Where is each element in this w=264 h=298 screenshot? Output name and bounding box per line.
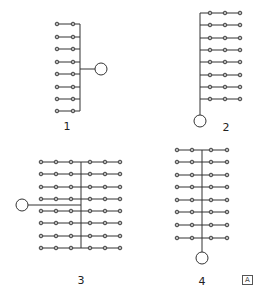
outlet-dot: [223, 73, 227, 77]
panel-2-label: 2: [223, 121, 230, 134]
outlet-dot: [55, 22, 59, 26]
outlet-dot: [209, 223, 213, 227]
outlet-dot: [54, 197, 58, 201]
outlet-dot: [208, 48, 212, 52]
outlet-dot: [54, 172, 58, 176]
outlet-dot: [88, 209, 92, 213]
outlet-dot: [39, 209, 43, 213]
outlet-dot: [54, 246, 58, 250]
outlet-dot: [209, 236, 213, 240]
outlet-dot: [238, 97, 242, 101]
outlet-dot: [209, 198, 213, 202]
outlet-dot: [225, 210, 229, 214]
source-circle-icon: [196, 252, 208, 264]
outlet-dot: [190, 173, 194, 177]
outlet-dot: [88, 234, 92, 238]
outlet-dot: [71, 22, 75, 26]
outlet-dot: [225, 185, 229, 189]
outlet-dot: [209, 160, 213, 164]
outlet-dot: [238, 11, 242, 15]
outlet-dot: [54, 209, 58, 213]
outlet-dot: [103, 197, 107, 201]
outlet-dot: [190, 198, 194, 202]
outlet-dot: [175, 236, 179, 240]
outlet-dot: [54, 234, 58, 238]
outlet-dot: [39, 197, 43, 201]
outlet-dot: [69, 185, 73, 189]
outlet-dot: [71, 85, 75, 89]
outlet-dot: [223, 36, 227, 40]
outlet-dot: [71, 72, 75, 76]
outlet-dot: [55, 47, 59, 51]
panel-4-label: 4: [199, 275, 206, 288]
outlet-dot: [71, 109, 75, 113]
outlet-dot: [208, 11, 212, 15]
outlet-dot: [225, 148, 229, 152]
outlet-dot: [103, 234, 107, 238]
outlet-dot: [71, 35, 75, 39]
outlet-dot: [209, 173, 213, 177]
outlet-dot: [225, 160, 229, 164]
panel-1: [55, 22, 107, 113]
outlet-dot: [225, 173, 229, 177]
outlet-dot: [208, 85, 212, 89]
outlet-dot: [55, 72, 59, 76]
outlet-dot: [175, 173, 179, 177]
publisher-mark-icon: A: [242, 275, 253, 285]
outlet-dot: [103, 209, 107, 213]
outlet-dot: [103, 185, 107, 189]
outlet-dot: [55, 60, 59, 64]
outlet-dot: [208, 60, 212, 64]
outlet-dot: [238, 48, 242, 52]
outlet-dot: [88, 160, 92, 164]
outlet-dot: [103, 160, 107, 164]
panel-3-label: 3: [78, 274, 85, 287]
outlet-dot: [238, 60, 242, 64]
outlet-dot: [223, 23, 227, 27]
outlet-dot: [88, 246, 92, 250]
outlet-dot: [69, 160, 73, 164]
outlet-dot: [190, 148, 194, 152]
outlet-dot: [175, 223, 179, 227]
outlet-dot: [103, 172, 107, 176]
outlet-dot: [55, 97, 59, 101]
outlet-dot: [88, 172, 92, 176]
outlet-dot: [223, 85, 227, 89]
outlet-dot: [69, 209, 73, 213]
outlet-dot: [69, 234, 73, 238]
outlet-dot: [71, 97, 75, 101]
outlet-dot: [225, 236, 229, 240]
source-circle-icon: [194, 115, 206, 127]
outlet-dot: [190, 223, 194, 227]
outlet-dot: [118, 185, 122, 189]
outlet-dot: [175, 148, 179, 152]
outlet-dot: [118, 234, 122, 238]
outlet-dot: [225, 223, 229, 227]
outlet-dot: [88, 221, 92, 225]
outlet-dot: [55, 109, 59, 113]
outlet-dot: [223, 97, 227, 101]
outlet-dot: [223, 60, 227, 64]
outlet-dot: [39, 185, 43, 189]
outlet-dot: [69, 246, 73, 250]
outlet-dot: [69, 172, 73, 176]
outlet-dot: [54, 160, 58, 164]
outlet-dot: [209, 210, 213, 214]
outlet-dot: [55, 35, 59, 39]
outlet-dot: [208, 23, 212, 27]
outlet-dot: [209, 148, 213, 152]
outlet-dot: [118, 197, 122, 201]
panel-1-label: 1: [64, 120, 71, 133]
outlet-dot: [225, 198, 229, 202]
outlet-dot: [103, 246, 107, 250]
wiring-diagrams: 1 2 3 4: [0, 0, 264, 298]
outlet-dot: [71, 47, 75, 51]
outlet-dot: [39, 160, 43, 164]
source-circle-icon: [95, 63, 107, 75]
outlet-dot: [208, 97, 212, 101]
outlet-dot: [190, 160, 194, 164]
outlet-dot: [39, 221, 43, 225]
outlet-dot: [238, 85, 242, 89]
outlet-dot: [175, 210, 179, 214]
outlet-dot: [39, 172, 43, 176]
